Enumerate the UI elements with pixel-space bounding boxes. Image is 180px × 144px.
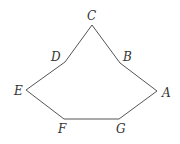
vertex-label-e: E xyxy=(13,84,23,98)
heptagon-outline xyxy=(26,25,157,119)
vertex-label-c: C xyxy=(87,9,96,23)
vertex-label-b: B xyxy=(122,50,132,64)
vertex-label-a: A xyxy=(161,86,171,100)
vertex-label-g: G xyxy=(116,122,126,136)
vertex-label-d: D xyxy=(50,50,61,64)
vertex-label-f: F xyxy=(57,122,67,136)
heptagon-diagram: C D B E A F G xyxy=(0,0,180,144)
